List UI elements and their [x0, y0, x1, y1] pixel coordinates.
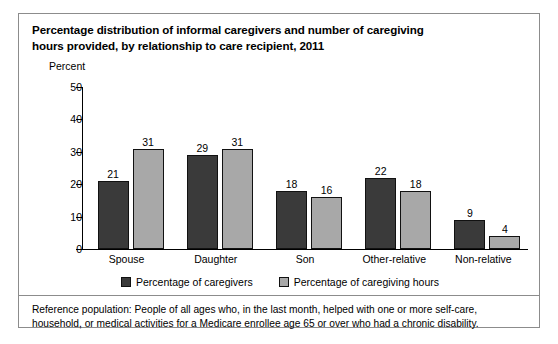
bar-value-label: 22: [375, 166, 387, 177]
bar: 31: [133, 149, 164, 249]
legend-item-caregivers: Percentage of caregivers: [121, 276, 253, 288]
y-axis-tick-label: 0: [42, 244, 82, 255]
footnote-divider: [19, 295, 539, 296]
bar: 29: [187, 155, 218, 249]
note-line-1: Reference population: People of all ages…: [32, 303, 528, 317]
y-axis-label: Percent: [49, 60, 85, 72]
y-axis-tick-label: 50: [42, 82, 82, 93]
x-axis-category-label: Daughter: [171, 253, 260, 265]
chart-legend: Percentage of caregivers Percentage of c…: [19, 276, 541, 288]
x-axis-category-label: Son: [260, 253, 349, 265]
bar: 9: [454, 220, 485, 249]
chart-title-line-2: hours provided, by relationship to care …: [32, 38, 512, 54]
bar: 21: [98, 181, 129, 249]
bar-value-label: 16: [321, 185, 333, 196]
legend-label-caregiving-hours: Percentage of caregiving hours: [294, 276, 439, 288]
x-axis-category-label: Spouse: [82, 253, 171, 265]
legend-swatch-caregivers: [121, 277, 131, 287]
bar-value-label: 18: [410, 179, 422, 190]
y-axis-tick-label: 30: [42, 147, 82, 158]
plot-area: Percent 01020304050 213129311816221894 S…: [32, 60, 528, 270]
y-axis-tick-label: 20: [42, 179, 82, 190]
bar: 4: [489, 236, 520, 249]
bar-group: 2131: [98, 87, 164, 249]
bar-group: 1816: [276, 87, 342, 249]
figure-panel: Percentage distribution of informal care…: [18, 13, 540, 328]
legend-item-caregiving-hours: Percentage of caregiving hours: [279, 276, 439, 288]
bar-value-label: 31: [231, 137, 243, 148]
bar-value-label: 29: [196, 143, 208, 154]
bar: 31: [222, 149, 253, 249]
chart-title: Percentage distribution of informal care…: [32, 22, 512, 54]
bar-value-label: 21: [107, 169, 119, 180]
bar-group: 2218: [365, 87, 431, 249]
reference-population-note: Reference population: People of all ages…: [32, 303, 528, 330]
bar: 16: [311, 197, 342, 249]
x-axis-line: [82, 249, 528, 250]
bar-value-label: 4: [502, 224, 508, 235]
bar-value-label: 31: [142, 137, 154, 148]
chart-title-line-1: Percentage distribution of informal care…: [32, 22, 512, 38]
bar: 22: [365, 178, 396, 249]
x-axis-category-label: Non-relative: [439, 253, 528, 265]
legend-swatch-caregiving-hours: [279, 277, 289, 287]
y-axis-tick-label: 10: [42, 212, 82, 223]
bar-value-label: 9: [467, 208, 473, 219]
y-axis-tick-label: 40: [42, 114, 82, 125]
bar-value-label: 18: [286, 179, 298, 190]
bar-group: 94: [454, 87, 520, 249]
note-line-2: household, or medical activities for a M…: [32, 317, 528, 331]
x-axis-category-label: Other-relative: [350, 253, 439, 265]
legend-label-caregivers: Percentage of caregivers: [136, 276, 253, 288]
bar-series-container: 213129311816221894: [82, 87, 528, 249]
bar-group: 2931: [187, 87, 253, 249]
bar: 18: [400, 191, 431, 249]
bar: 18: [276, 191, 307, 249]
